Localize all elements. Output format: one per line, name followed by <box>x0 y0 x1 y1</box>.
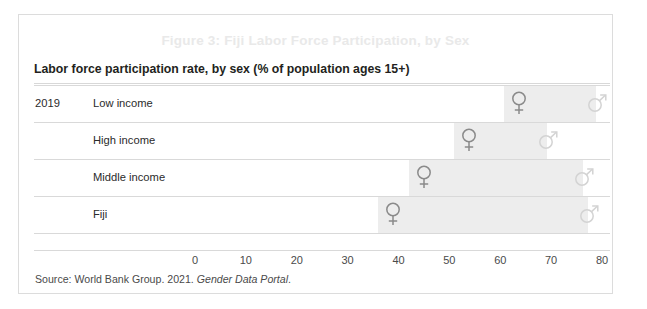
source-suffix: . <box>288 273 291 285</box>
x-axis-tick-label: 40 <box>392 254 404 266</box>
x-axis-tick-label: 60 <box>494 254 506 266</box>
category-label: Middle income <box>93 171 165 183</box>
x-axis-tick-label: 30 <box>342 254 354 266</box>
mars-symbol-icon <box>537 127 559 153</box>
category-label: Fiji <box>93 208 107 220</box>
row-range-band <box>378 197 588 234</box>
x-axis-tick-label: 0 <box>192 254 198 266</box>
venus-symbol-icon <box>508 90 530 116</box>
x-axis-tick-label: 50 <box>443 254 455 266</box>
grid-line <box>34 233 610 234</box>
mars-symbol-icon <box>586 90 608 116</box>
chart-plot-area: 2019 Low incomeHigh incomeMiddle incomeF… <box>19 85 614 250</box>
x-axis-tick-label: 10 <box>240 254 252 266</box>
mars-symbol-icon <box>573 164 595 190</box>
x-axis-line <box>34 250 610 251</box>
venus-symbol-icon <box>413 164 435 190</box>
source-prefix: Source: World Bank Group. 2021. <box>35 273 197 285</box>
x-axis-tick-label: 20 <box>291 254 303 266</box>
chart-subtitle: Labor force participation rate, by sex (… <box>34 62 409 76</box>
category-label: Low income <box>93 97 153 109</box>
category-label: High income <box>93 134 155 146</box>
subtitle-divider <box>34 83 610 84</box>
figure-caption: Figure 3: Fiji Labor Force Participation… <box>19 33 612 48</box>
row-range-band <box>409 160 583 197</box>
mars-symbol-icon <box>578 201 600 227</box>
venus-symbol-icon <box>382 201 404 227</box>
source-publication: Gender Data Portal <box>197 273 288 285</box>
figure-frame: Figure 3: Fiji Labor Force Participation… <box>18 14 613 294</box>
year-label: 2019 <box>35 97 60 109</box>
source-note: Source: World Bank Group. 2021. Gender D… <box>35 273 291 285</box>
x-axis-tick-label: 70 <box>545 254 557 266</box>
x-axis-tick-label: 80 <box>596 254 608 266</box>
venus-symbol-icon <box>458 127 480 153</box>
